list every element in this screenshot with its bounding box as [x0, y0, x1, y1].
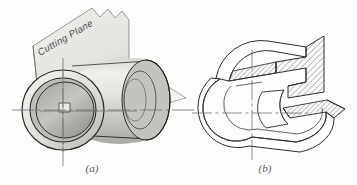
caption-a: (a) — [86, 162, 99, 175]
figure-container: Cutting Plane — [0, 0, 357, 185]
lower-cut-hatch — [283, 100, 345, 118]
panel-b-group: (b) — [192, 36, 345, 175]
section-lower-cut-face — [283, 100, 345, 118]
upper-step-edge-secondary — [236, 82, 262, 86]
engineering-drawing-canvas: Cutting Plane — [0, 0, 357, 185]
caption-b: (b) — [259, 162, 272, 175]
cylinder-far-end — [122, 60, 170, 140]
panel-a-group: Cutting Plane — [12, 8, 196, 175]
